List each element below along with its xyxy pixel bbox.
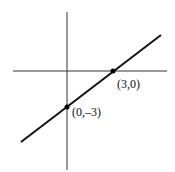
label-y-intercept: (0,–3) (72, 105, 101, 119)
point-y-intercept (65, 105, 70, 110)
graph-canvas: (3,0) (0,–3) (0, 0, 175, 172)
label-x-intercept: (3,0) (117, 77, 140, 91)
point-x-intercept (111, 69, 116, 74)
plotted-line (21, 35, 161, 142)
